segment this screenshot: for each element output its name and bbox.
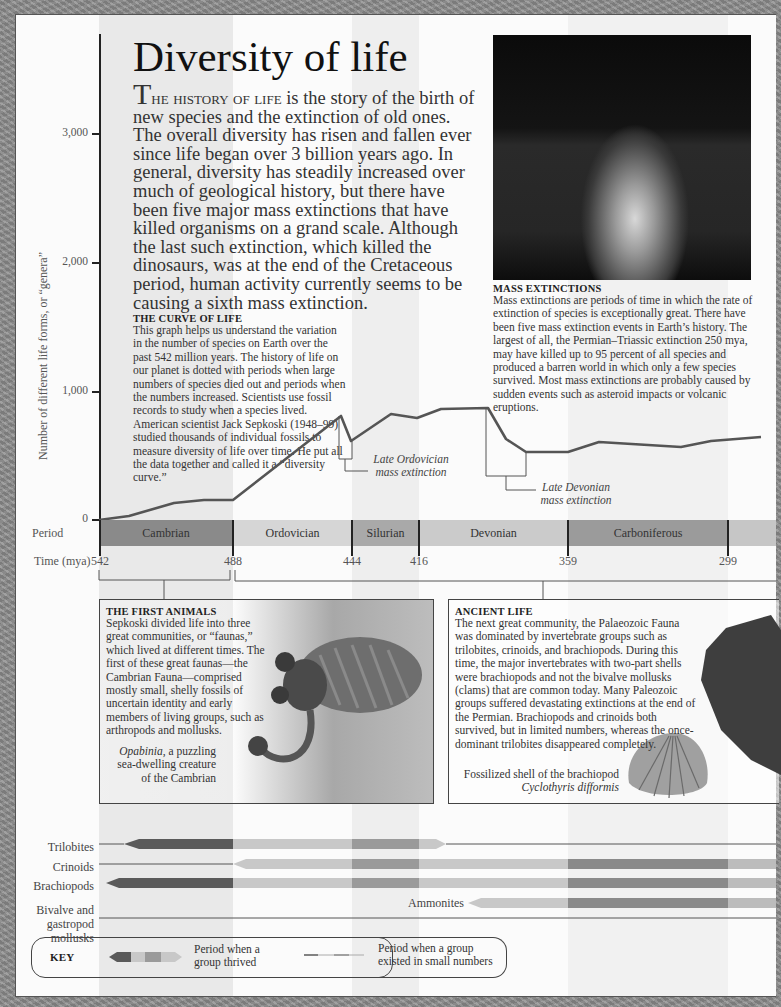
key-box: KEY Period when a group thrived [31,937,393,978]
page-panel: Diversity of life The history of life is… [15,14,776,997]
key-thrived-icon [109,950,184,964]
key-box-right-edge [371,937,507,978]
key-small-numbers-icon [304,952,364,958]
key-label: KEY [50,951,74,963]
group-ranges [16,15,776,996]
label-ammonites: Ammonites [408,896,464,911]
key-thrived-text: Period when a group thrived [194,943,284,970]
